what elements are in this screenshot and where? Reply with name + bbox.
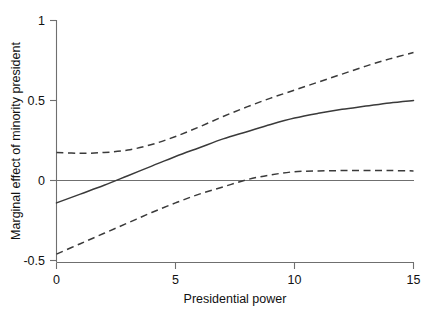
x-tick-label-0: 0 <box>53 273 60 287</box>
plot-background <box>0 0 425 314</box>
marginal-effect-plot: 1 0.5 0 -0.5 0 5 10 15 Presidential powe… <box>0 0 425 314</box>
y-axis-title: Marginal effect of minority president <box>9 42 23 240</box>
y-tick-label-0p5: 0.5 <box>28 94 45 108</box>
x-tick-label-5: 5 <box>172 273 179 287</box>
y-tick-label-1: 1 <box>38 14 45 28</box>
y-tick-label-0: 0 <box>38 174 45 188</box>
chart-container: 1 0.5 0 -0.5 0 5 10 15 Presidential powe… <box>0 0 425 314</box>
y-tick-label-minus0p5: -0.5 <box>23 254 45 268</box>
x-tick-label-15: 15 <box>407 273 421 287</box>
x-tick-label-10: 10 <box>288 273 302 287</box>
x-axis-title: Presidential power <box>184 292 287 306</box>
